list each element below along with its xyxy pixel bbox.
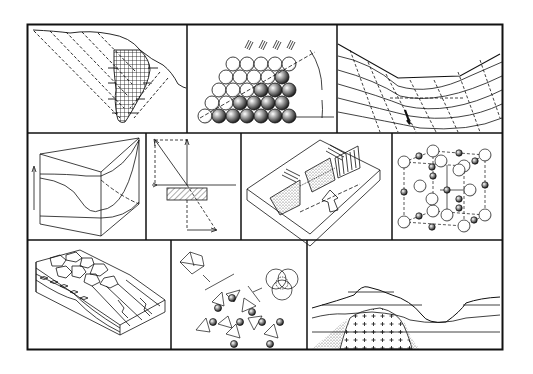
panel-block-diagram-surface [32,138,139,236]
panel-vector-stress-diagram [152,139,236,232]
panel-crystal-lattice [398,145,491,232]
panel-polygonal-terrain-block [36,250,165,335]
panel-tetrahedra-silicate-ring [180,252,298,348]
panel-slope-ore-body [33,30,186,122]
figure-collage [0,0,533,374]
panel-intrusion-landscape [312,287,500,349]
panel-sphere-packing-pile [198,40,334,123]
panel-valley-strata-section [338,44,502,132]
panel-sediment-channel-block [247,140,380,246]
